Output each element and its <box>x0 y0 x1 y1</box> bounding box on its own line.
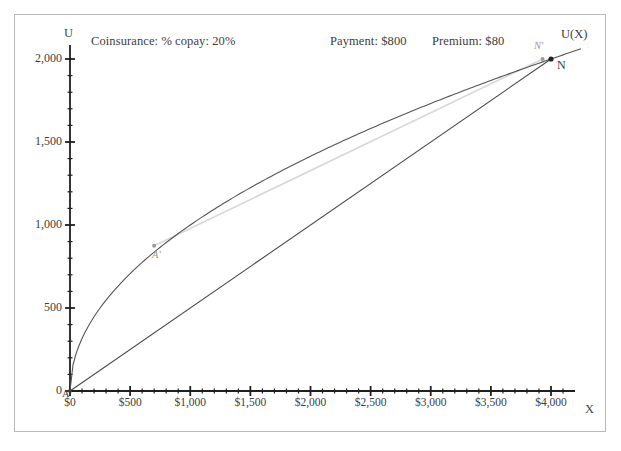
x-axis-tick-label: $500 <box>100 396 160 408</box>
chart-container: Coinsurance: % copay: 20% Payment: $800 … <box>0 0 621 451</box>
point-label-n: N <box>557 58 566 73</box>
y-axis-title: U <box>64 26 73 41</box>
chart-plot-svg <box>0 0 621 451</box>
point-marker-n <box>548 56 553 61</box>
x-axis-tick-label: $3,000 <box>401 396 461 408</box>
x-axis-tick-label: $2,500 <box>341 396 401 408</box>
x-axis-title: X <box>585 402 594 417</box>
point-marker-n-prime <box>541 57 545 61</box>
curve-label-ux: U(X) <box>561 27 587 42</box>
annotation-payment: Payment: $800 <box>330 34 407 49</box>
point-marker-a-prime <box>152 244 156 248</box>
annotation-coinsurance: Coinsurance: % copay: 20% <box>91 34 235 49</box>
x-axis-tick-label: $4,000 <box>521 396 581 408</box>
chord-a-to-n <box>70 59 551 391</box>
y-axis-tick-label: 500 <box>18 300 62 315</box>
y-axis-tick-label: 2,000 <box>18 51 62 66</box>
x-axis-tick-label: $2,000 <box>281 396 341 408</box>
x-axis-tick-label: $1,500 <box>220 396 280 408</box>
x-axis-tick-label: $1,000 <box>160 396 220 408</box>
annotation-premium: Premium: $80 <box>432 34 504 49</box>
point-label-a-prime: A' <box>152 249 161 260</box>
x-axis-tick-label: $0 <box>40 396 100 408</box>
y-axis-tick-label: 1,500 <box>18 134 62 149</box>
point-label-n-prime: N' <box>534 40 543 51</box>
y-axis-tick-label: 1,000 <box>18 217 62 232</box>
x-axis-tick-label: $3,500 <box>461 396 521 408</box>
utility-curve-ux <box>70 49 581 391</box>
line-aprime-nprime <box>154 59 542 246</box>
